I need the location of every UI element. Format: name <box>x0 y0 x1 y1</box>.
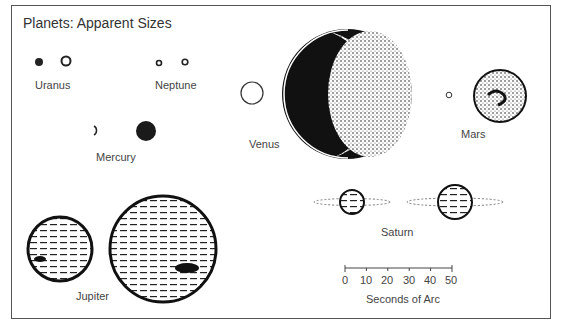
uranus-icon <box>35 57 71 67</box>
label-jupiter: Jupiter <box>76 290 109 302</box>
mercury-icon <box>94 121 156 141</box>
planet-drawings <box>0 0 563 331</box>
scale-tick-10: 10 <box>360 274 372 286</box>
label-saturn: Saturn <box>381 226 413 238</box>
jupiter-icon <box>28 196 216 302</box>
scale-tick-30: 30 <box>403 274 415 286</box>
scale-tick-0: 0 <box>342 274 348 286</box>
label-mars: Mars <box>461 128 485 140</box>
scale-bar <box>345 265 452 272</box>
label-venus: Venus <box>249 138 280 150</box>
mars-icon <box>446 70 526 122</box>
neptune-icon <box>157 59 188 65</box>
label-mercury: Mercury <box>96 151 136 163</box>
scale-tick-20: 20 <box>381 274 393 286</box>
saturn-icon <box>314 185 503 219</box>
scale-label: Seconds of Arc <box>366 293 440 305</box>
scale-tick-50: 50 <box>445 274 457 286</box>
label-neptune: Neptune <box>155 79 197 91</box>
scale-tick-40: 40 <box>424 274 436 286</box>
label-uranus: Uranus <box>35 79 70 91</box>
